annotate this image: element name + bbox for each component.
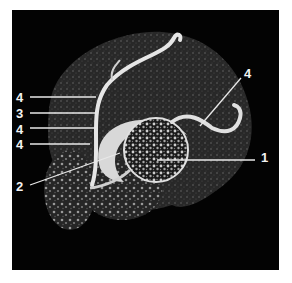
- label-2: 2: [16, 180, 23, 193]
- label-4-lower: 4: [16, 138, 23, 151]
- label-1: 1: [261, 151, 268, 164]
- spongy-head: [124, 118, 188, 182]
- label-3: 3: [16, 107, 23, 120]
- label-4-right: 4: [244, 67, 251, 80]
- label-4-top: 4: [16, 91, 23, 104]
- label-4-middle: 4: [16, 123, 23, 136]
- anatomical-cross-section: [12, 10, 279, 270]
- specimen-image-panel: [12, 10, 279, 270]
